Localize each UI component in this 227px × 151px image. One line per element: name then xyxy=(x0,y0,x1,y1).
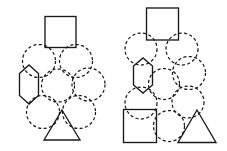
shape-square-solid xyxy=(45,17,76,48)
shape-circle-dashed xyxy=(72,68,105,101)
shape-circle-dashed xyxy=(60,45,93,78)
shape-circle-dashed xyxy=(63,96,96,129)
shape-triangle-solid xyxy=(178,110,216,143)
right-panel xyxy=(124,8,217,143)
shape-diagram xyxy=(0,0,227,151)
shape-circle-dashed xyxy=(166,33,198,65)
left-panel xyxy=(20,17,106,141)
shape-circle-dashed xyxy=(154,111,185,142)
shape-triangle-solid xyxy=(44,110,80,140)
shape-circle-dashed xyxy=(173,57,206,90)
shape-hexagon-solid xyxy=(20,65,39,104)
shape-circle-dashed xyxy=(42,69,75,102)
shape-circle-dashed xyxy=(23,45,56,78)
figure-canvas xyxy=(0,0,227,151)
